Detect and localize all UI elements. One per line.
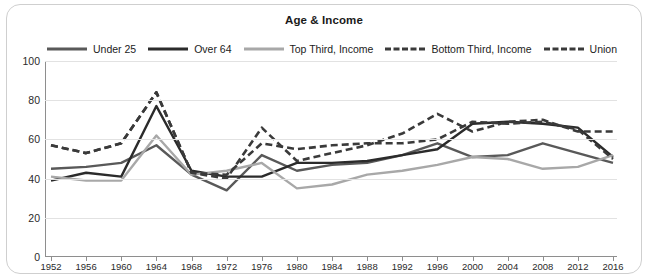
series-lines [45, 61, 617, 257]
y-axis-tick-label: 0 [34, 251, 40, 263]
page-title: Age & Income [7, 14, 641, 26]
x-axis-tick-label: 2000 [462, 261, 483, 272]
legend-swatch-icon [148, 43, 188, 55]
x-axis-tick-label: 1984 [321, 261, 342, 272]
x-axis-tick-label: 1976 [251, 261, 272, 272]
x-axis-tick-label: 1964 [146, 261, 167, 272]
series-line-1 [51, 106, 613, 180]
gridline [45, 218, 617, 219]
gridline [45, 61, 617, 62]
chart-card: Age & Income Under 25Over 64Top Third, I… [6, 4, 642, 274]
legend-label: Under 25 [93, 43, 136, 55]
legend-item-0[interactable]: Under 25 [47, 43, 136, 55]
x-axis-tick-label: 2008 [532, 261, 553, 272]
legend-swatch-icon [244, 43, 284, 55]
x-axis-tick-label: 2016 [602, 261, 623, 272]
y-axis-tick-label: 60 [28, 133, 40, 145]
x-axis-tick-label: 1972 [216, 261, 237, 272]
x-axis-tick-label: 2012 [567, 261, 588, 272]
legend-swatch-icon [47, 43, 87, 55]
legend-label: Over 64 [194, 43, 231, 55]
x-axis-tick-label: 2004 [497, 261, 518, 272]
chart-legend: Under 25Over 64Top Third, IncomeBottom T… [47, 41, 617, 57]
legend-label: Bottom Third, Income [431, 43, 531, 55]
plot-area [45, 61, 617, 257]
y-axis-tick-label: 20 [28, 212, 40, 224]
y-axis-labels: 100806040200 [7, 61, 40, 257]
legend-item-1[interactable]: Over 64 [148, 43, 231, 55]
x-axis-tick-label: 1952 [40, 261, 61, 272]
y-axis-tick-label: 100 [22, 55, 40, 67]
legend-label: Union [590, 43, 617, 55]
x-axis-tick-label: 1968 [181, 261, 202, 272]
x-axis-tick-label: 1960 [111, 261, 132, 272]
legend-item-4[interactable]: Union [544, 43, 617, 55]
gridline [45, 139, 617, 140]
gridline [45, 179, 617, 180]
legend-swatch-icon [544, 43, 584, 55]
legend-swatch-icon [385, 43, 425, 55]
legend-item-3[interactable]: Bottom Third, Income [385, 43, 531, 55]
x-axis-tick-label: 1988 [357, 261, 378, 272]
y-axis-tick-label: 80 [28, 94, 40, 106]
x-axis-labels: 1952195619601964196819721976198019841988… [45, 261, 617, 275]
x-axis-tick-label: 1992 [392, 261, 413, 272]
x-axis-tick-label: 1996 [427, 261, 448, 272]
x-axis-tick-label: 1956 [76, 261, 97, 272]
x-axis-tick-label: 1980 [286, 261, 307, 272]
legend-item-2[interactable]: Top Third, Income [244, 43, 374, 55]
y-axis-tick-label: 40 [28, 173, 40, 185]
legend-label: Top Third, Income [290, 43, 374, 55]
gridline [45, 100, 617, 101]
